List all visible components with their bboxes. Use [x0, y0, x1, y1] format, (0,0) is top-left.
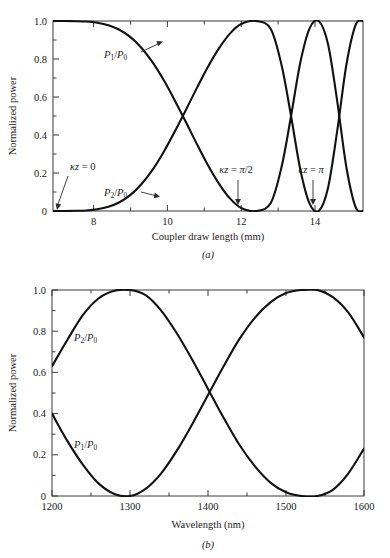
chart-a-caption: (a) [202, 249, 215, 261]
annotation-p1-leader-a [141, 43, 160, 52]
annotation-kz-zero: κz = 0 [70, 161, 96, 172]
y-tick-label: 1.0 [33, 285, 46, 296]
annotation-p1-label-b: P1/P0 [73, 439, 97, 452]
chart-b-tick-labels: 00.20.40.60.81.012001300140015001600 [33, 285, 375, 512]
annotation-p1-label-a: P1/P0 [103, 49, 127, 62]
curve-p1p0 [52, 289, 364, 496]
y-tick-label: 0 [41, 491, 46, 502]
x-tick-label: 10 [162, 216, 173, 227]
y-tick-label: 0.2 [33, 449, 46, 460]
y-tick-label: 0.4 [33, 408, 47, 419]
y-tick-label: 0 [42, 206, 47, 217]
figure-container: 00.20.40.60.81.08101214 Normalized power… [0, 0, 390, 558]
annotation-p2-label-a: P2/P0 [103, 187, 127, 200]
y-tick-label: 0.6 [34, 92, 47, 103]
x-tick-label: 8 [91, 216, 96, 227]
y-tick-label: 0.8 [33, 326, 46, 337]
chart-a-curves [53, 20, 363, 212]
y-tick-label: 1.0 [34, 16, 47, 27]
y-tick-label: 0.2 [34, 168, 47, 179]
x-tick-label: 1500 [276, 501, 297, 512]
x-tick-label: 1300 [120, 501, 141, 512]
y-tick-label: 0.4 [34, 130, 48, 141]
y-tick-label: 0.6 [33, 367, 46, 378]
annotation-p2-label-b: P2/P0 [73, 332, 97, 345]
annotation-kz-pi-half: κz = π/2 [219, 164, 253, 175]
chart-panel-b: 00.20.40.60.81.012001300140015001600 Nor… [0, 278, 390, 558]
chart-a-xlabel: Coupler draw length (mm) [152, 231, 265, 243]
annotation-kz-zero-leader [57, 176, 68, 207]
x-tick-label: 14 [310, 216, 321, 227]
annotation-kz-zero-arrowhead [56, 203, 62, 210]
x-tick-label: 12 [236, 216, 247, 227]
chart-b-curves [52, 289, 364, 496]
chart-a-frame [53, 21, 363, 211]
y-tick-label: 0.8 [34, 54, 47, 65]
curve-p2p0 [53, 20, 363, 211]
x-tick-label: 1200 [42, 501, 63, 512]
chart-b-ylabel: Normalized power [7, 353, 18, 432]
annotation-p1-arrowhead-a [156, 41, 163, 46]
x-tick-label: 1400 [198, 501, 219, 512]
chart-b-svg: 00.20.40.60.81.012001300140015001600 Nor… [0, 278, 390, 558]
chart-a-svg: 00.20.40.60.81.08101214 Normalized power… [0, 0, 390, 278]
chart-a-tickmarks [53, 21, 315, 211]
x-tick-label: 1600 [354, 501, 375, 512]
curve-p1p0 [53, 20, 363, 211]
annotation-kz-pi: κz = π [298, 164, 324, 175]
annotation-p2-arrowhead-a [154, 193, 160, 199]
chart-b-caption: (b) [202, 539, 215, 551]
chart-b-xlabel: Wavelength (nm) [172, 519, 245, 531]
chart-a-ylabel: Normalized power [7, 76, 18, 155]
chart-panel-a: 00.20.40.60.81.08101214 Normalized power… [0, 0, 390, 278]
